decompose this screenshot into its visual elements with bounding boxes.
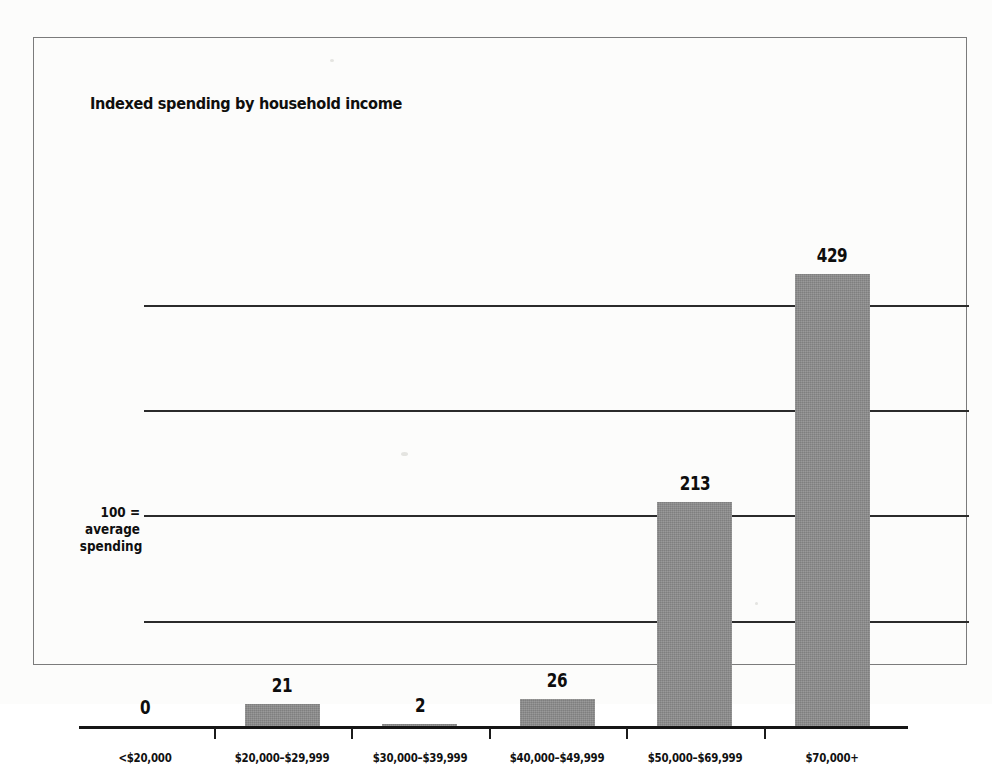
bar-value-label: 26: [517, 669, 597, 691]
figure-frame: Indexed spending by household income 100…: [33, 37, 967, 665]
axis-tick: [214, 728, 216, 739]
chart-title: Indexed spending by household income: [90, 94, 402, 113]
bar: [657, 502, 732, 726]
bar-value-label: 429: [792, 244, 872, 266]
baseline-annotation-line-2: average: [80, 521, 140, 538]
bar: [520, 699, 595, 726]
axis-baseline: [79, 726, 908, 729]
axis-tick: [489, 728, 491, 739]
scan-speck: [401, 452, 408, 456]
bar: [382, 724, 457, 726]
category-label: $30,000–$39,999: [344, 751, 495, 765]
bar: [245, 704, 320, 726]
bar: [795, 274, 870, 726]
baseline-annotation: 100 = average spending: [80, 504, 140, 555]
bar-value-label: 213: [655, 472, 735, 494]
category-label: $40,000–$49,999: [482, 751, 633, 765]
category-label: $20,000–$29,999: [207, 751, 358, 765]
bar-value-label: 21: [242, 674, 322, 696]
scan-speck: [755, 602, 758, 605]
category-label: $70,000+: [757, 751, 908, 765]
axis-tick: [351, 728, 353, 739]
bar-value-label: 2: [380, 694, 460, 716]
plot-area: 0<$20,00021$20,000–$29,9992$30,000–$39,9…: [144, 148, 969, 618]
category-label: $50,000–$69,999: [619, 751, 770, 765]
baseline-annotation-line-3: spending: [80, 538, 140, 555]
axis-tick: [764, 728, 766, 739]
axis-tick: [626, 728, 628, 739]
bar-value-label: 0: [105, 696, 185, 718]
scan-speck: [330, 59, 334, 62]
category-label: <$20,000: [69, 751, 220, 765]
baseline-annotation-line-1: 100 =: [80, 504, 140, 521]
